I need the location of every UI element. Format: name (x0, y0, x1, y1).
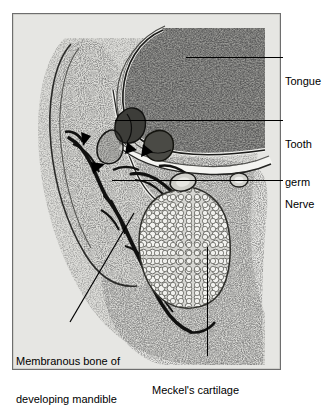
label-meckels-cartilage: Meckel's cartilage (152, 359, 239, 409)
label-nerve: Nerve (285, 173, 314, 236)
label-tongue: Tongue (285, 50, 321, 113)
label-nerve-line-1: Nerve (285, 198, 314, 211)
leader-line-tongue (186, 57, 283, 58)
leader-line-nerve (112, 180, 283, 181)
leader-line-meckels-cartilage (207, 247, 208, 356)
micrograph-panel (12, 13, 281, 370)
leader-line-tooth-germ (115, 120, 283, 121)
label-meckels-cartilage-line-1: Meckel's cartilage (152, 384, 239, 397)
label-membranous-bone-line-2: developing mandible (16, 393, 120, 406)
label-membranous-bone-line-1: Membranous bone of (16, 355, 120, 368)
label-tooth-germ-line-1: Tooth (285, 138, 312, 151)
histology-section-drawing (13, 14, 280, 369)
micrograph-image (13, 14, 280, 369)
label-tongue-line-1: Tongue (285, 75, 321, 88)
label-membranous-bone: Membranous bone of developing mandible (16, 330, 120, 409)
